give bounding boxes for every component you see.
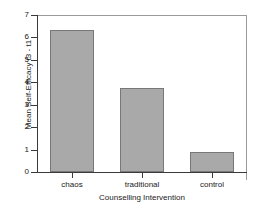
y-tick bbox=[31, 60, 37, 61]
y-tick bbox=[31, 127, 37, 128]
y-tick-label: 2 bbox=[0, 123, 29, 131]
bar bbox=[120, 88, 163, 172]
bar bbox=[190, 152, 233, 172]
bar bbox=[50, 30, 93, 172]
y-tick-label: 5 bbox=[0, 56, 29, 64]
y-tick bbox=[31, 37, 37, 38]
x-tick bbox=[212, 173, 213, 178]
x-tick bbox=[72, 173, 73, 178]
y-tick bbox=[31, 15, 37, 16]
x-tick-label: chaos bbox=[61, 180, 82, 189]
x-tick-label: traditional bbox=[125, 180, 160, 189]
y-tick-label: 4 bbox=[0, 78, 29, 86]
y-tick-label: 0 bbox=[0, 168, 29, 176]
x-tick bbox=[142, 173, 143, 178]
y-axis-line bbox=[37, 15, 38, 173]
y-tick-label: 7 bbox=[0, 11, 29, 19]
x-axis-title: Counselling Intervention bbox=[37, 193, 247, 202]
y-tick bbox=[31, 105, 37, 106]
y-tick-label: 3 bbox=[0, 101, 29, 109]
y-tick bbox=[31, 150, 37, 151]
x-tick-label: control bbox=[200, 180, 224, 189]
y-tick-label: 6 bbox=[0, 33, 29, 41]
y-tick-label: 1 bbox=[0, 146, 29, 154]
y-tick bbox=[31, 172, 37, 173]
y-tick bbox=[31, 82, 37, 83]
bar-chart-figure: Mean Self-Efficacy t3 - t1 01234567 chao… bbox=[0, 0, 264, 208]
